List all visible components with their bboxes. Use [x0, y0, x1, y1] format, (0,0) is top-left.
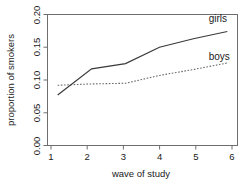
- x-tick-label-3: 3: [121, 151, 126, 162]
- x-tick-label-2: 2: [85, 151, 90, 162]
- y-tick-label-1: 0.05: [31, 104, 42, 123]
- smokers-line-chart: 0.00 0.05 0.10 0.15 0.20 proportion of s…: [0, 0, 252, 184]
- plot-frame: [48, 15, 238, 146]
- x-tick-label-1: 1: [48, 151, 53, 162]
- y-tick-label-4: 0.20: [31, 6, 42, 25]
- y-tick-label-0: 0.00: [31, 137, 42, 156]
- y-tick-label-2: 0.10: [31, 71, 42, 90]
- chart-container: 0.00 0.05 0.10 0.15 0.20 proportion of s…: [0, 0, 252, 184]
- series-label-girls: girls: [209, 13, 227, 24]
- series-line-girls: [58, 32, 228, 96]
- x-axis-title: wave of study: [111, 168, 170, 179]
- x-tick-label-5: 5: [193, 151, 198, 162]
- series-label-boys: boys: [209, 51, 230, 62]
- y-axis-title: proportion of smokers: [5, 34, 16, 126]
- series-line-boys: [58, 63, 228, 85]
- x-tick-label-4: 4: [157, 151, 162, 162]
- x-axis-ticks: [51, 146, 232, 150]
- x-tick-label-6: 6: [229, 151, 234, 162]
- y-axis-ticks: [44, 15, 48, 146]
- y-tick-label-3: 0.15: [31, 38, 42, 57]
